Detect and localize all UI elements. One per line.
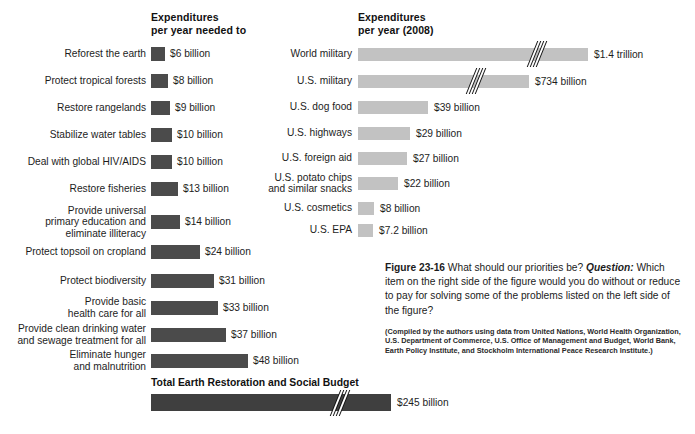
total-budget-row: $245 billion xyxy=(0,394,695,411)
left-bar xyxy=(151,354,248,368)
right-category-label: World military xyxy=(182,48,352,60)
left-bar-row: Protect biodiversity$31 billion xyxy=(0,273,340,289)
caption-body: Figure 23-16 What should our priorities … xyxy=(385,261,685,318)
right-bar-row: World military$1.4 trillion xyxy=(0,47,695,62)
right-bar-row: U.S. highways$29 billion xyxy=(0,126,695,141)
right-bar-value: $1.4 trillion xyxy=(594,48,643,61)
right-category-label: U.S. cosmetics xyxy=(182,202,352,214)
total-budget-label: Total Earth Restoration and Social Budge… xyxy=(151,377,359,388)
figure-caption: Figure 23-16 What should our priorities … xyxy=(385,261,685,356)
right-category-label: U.S. military xyxy=(182,75,352,87)
right-bar-value: $8 billion xyxy=(380,202,420,215)
right-panel-header: Expenditures per year (2008) xyxy=(358,11,434,36)
right-bar-value: $734 billion xyxy=(535,75,587,88)
right-bar xyxy=(358,224,373,237)
left-bar-value: $48 billion xyxy=(253,354,299,368)
caption-source: (Compiled by the authors using data from… xyxy=(385,327,685,356)
left-bar-value: $33 billion xyxy=(223,301,269,315)
left-bar xyxy=(151,328,226,342)
right-bar-value: $39 billion xyxy=(434,101,480,114)
right-category-label: U.S. highways xyxy=(182,127,352,139)
left-bar xyxy=(151,274,214,288)
right-bar-row: U.S. cosmetics$8 billion xyxy=(0,201,695,216)
figure-number: Figure 23-16 xyxy=(385,262,445,273)
caption-question-label: Question: xyxy=(586,262,634,273)
total-budget-bar xyxy=(151,394,391,411)
right-bar-value: $27 billion xyxy=(413,152,459,165)
right-bar-row: U.S. dog food$39 billion xyxy=(0,100,695,115)
right-bar-value: $22 billion xyxy=(404,177,450,190)
left-category-label: Eliminate hunger and malnutrition xyxy=(0,349,146,372)
left-category-label: Provide clean drinking water and sewage … xyxy=(0,323,146,346)
left-bar-value: $31 billion xyxy=(219,274,265,288)
right-bar xyxy=(358,48,588,61)
left-bar-row: Provide basic health care for all$33 bil… xyxy=(0,300,340,316)
right-category-label: U.S. potato chips and similar snacks xyxy=(182,172,352,195)
right-bar xyxy=(358,202,374,215)
right-expenditures-panel: Expenditures per year (2008) World milit… xyxy=(0,0,695,250)
left-bar-row: Provide clean drinking water and sewage … xyxy=(0,327,340,343)
right-bar xyxy=(358,152,407,165)
right-category-label: U.S. EPA xyxy=(182,224,352,236)
right-category-label: U.S. dog food xyxy=(182,101,352,113)
right-category-label: U.S. foreign aid xyxy=(182,152,352,164)
right-bar xyxy=(358,127,410,140)
right-bar-row: U.S. military$734 billion xyxy=(0,74,695,89)
right-bar xyxy=(358,75,529,88)
left-bar-row: Eliminate hunger and malnutrition$48 bil… xyxy=(0,353,340,369)
total-budget-value: $245 billion xyxy=(397,395,449,410)
left-category-label: Protect biodiversity xyxy=(0,275,146,287)
right-bar xyxy=(358,101,428,114)
right-bar-row: U.S. EPA$7.2 billion xyxy=(0,223,695,238)
left-category-label: Provide basic health care for all xyxy=(0,296,146,319)
right-bar-value: $7.2 billion xyxy=(379,224,428,237)
right-bar xyxy=(358,177,398,190)
left-bar xyxy=(151,301,218,315)
right-bar-row: U.S. foreign aid$27 billion xyxy=(0,151,695,166)
left-bar-value: $37 billion xyxy=(231,328,277,342)
caption-title: What should our priorities be? xyxy=(445,262,586,273)
right-bar-row: U.S. potato chips and similar snacks$22 … xyxy=(0,176,695,191)
right-bar-value: $29 billion xyxy=(416,127,462,140)
